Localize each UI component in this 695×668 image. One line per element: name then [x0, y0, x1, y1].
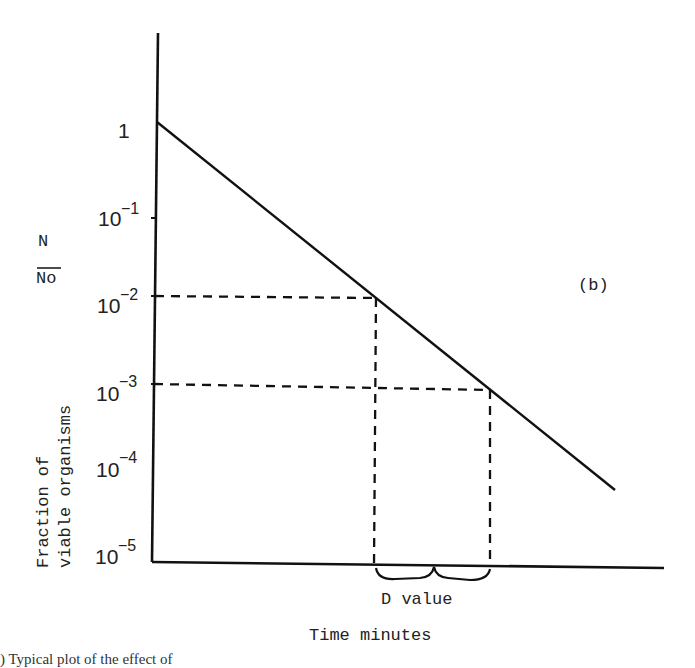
y-tick-10-5-exp: −5 — [118, 537, 136, 554]
d-value-label: D value — [381, 590, 452, 609]
dashed-guides — [154, 296, 490, 567]
y-tick-10-3: 10 — [96, 382, 119, 405]
y-tick-10-3-exp: −3 — [119, 373, 137, 390]
panel-label: (b) — [578, 276, 609, 295]
y-tick-10-1: 10 — [98, 207, 121, 230]
y-tick-10-1-exp: −1 — [121, 200, 139, 217]
x-axis — [152, 562, 664, 568]
y-axis — [152, 33, 158, 562]
y-tick-10-5: 10 — [95, 545, 118, 568]
y-label-numerator: N — [38, 232, 48, 251]
y-tick-10-4: 10 — [96, 458, 119, 481]
y-tick-1: 1 — [118, 119, 130, 142]
figure-caption: ) Typical plot of the effect of — [0, 651, 173, 668]
d-value-brace — [376, 567, 490, 580]
y-tick-10-2: 10 — [97, 294, 120, 317]
x-axis-label: Time minutes — [309, 626, 431, 645]
y-label-line1: Fraction of — [34, 456, 53, 568]
survival-curve — [157, 122, 615, 490]
y-label-denominator: No — [36, 269, 56, 288]
y-tick-10-4-exp: −4 — [119, 449, 137, 466]
y-tick-10-2-exp: −2 — [120, 286, 138, 303]
y-label-line2: viable organisms — [56, 405, 75, 568]
